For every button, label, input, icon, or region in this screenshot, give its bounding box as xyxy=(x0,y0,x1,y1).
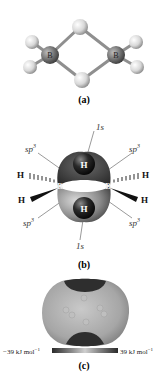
boron-label: B xyxy=(47,51,52,60)
scale-min-label: −39 kJ mol−1 xyxy=(3,347,40,356)
orbital-label-1s: 1s xyxy=(76,241,85,251)
scale-max-label: 39 kJ mol−1 xyxy=(120,347,153,356)
hybrid-label-sp3: sp3 xyxy=(25,143,36,154)
bridging-hydrogen-label: H xyxy=(80,160,87,170)
potential-color-scale: −39 kJ mol−1 39 kJ mol−1 xyxy=(3,347,153,356)
leader-line xyxy=(108,153,132,170)
panel-a-ball-and-stick: B B xyxy=(23,19,144,88)
terminal-hydrogen-label: H xyxy=(17,170,24,180)
orbital-label-1s: 1s xyxy=(96,122,105,132)
panel-b-caption: (b) xyxy=(78,259,90,271)
hashed-wedge-bond-right xyxy=(114,173,138,183)
scale-gradient-bar xyxy=(52,348,118,353)
boron-label: B xyxy=(113,51,118,60)
orbital-node xyxy=(64,182,104,191)
terminal-hydrogen-label: H xyxy=(142,170,149,180)
leader-line xyxy=(88,131,94,152)
panel-b-orbital-diagram: H H B B H H H H xyxy=(17,122,149,251)
hybrid-label-sp3: sp3 xyxy=(129,217,140,228)
panel-a-caption: (a) xyxy=(78,94,90,106)
panel-c-electrostatic-potential-map xyxy=(42,279,129,347)
bridging-hydrogen-label: H xyxy=(80,204,87,214)
solid-wedge-bond-left xyxy=(30,188,58,202)
panel-c-caption: (c) xyxy=(78,360,89,372)
terminal-hydrogen-label: H xyxy=(141,195,148,205)
leader-line xyxy=(38,153,62,170)
leader-line xyxy=(38,201,62,218)
terminal-hydrogen-atom xyxy=(130,60,144,74)
terminal-hydrogen-atom xyxy=(25,35,39,49)
hashed-wedge-bond-left xyxy=(30,173,54,183)
bridging-hydrogen-atom xyxy=(74,72,90,88)
solid-wedge-bond-right xyxy=(110,188,138,202)
leader-line xyxy=(108,201,132,218)
boron-label: B xyxy=(105,181,111,191)
boron-label: B xyxy=(57,181,63,191)
diborane-figure: B B (a) H H xyxy=(0,0,168,385)
hybrid-label-sp3: sp3 xyxy=(23,217,34,228)
terminal-hydrogen-atom xyxy=(23,60,37,74)
terminal-hydrogen-label: H xyxy=(18,195,25,205)
terminal-hydrogen-atom xyxy=(129,35,143,49)
bridging-hydrogen-atom xyxy=(72,19,88,35)
leader-line xyxy=(80,220,83,240)
hybrid-label-sp3: sp3 xyxy=(129,143,140,154)
